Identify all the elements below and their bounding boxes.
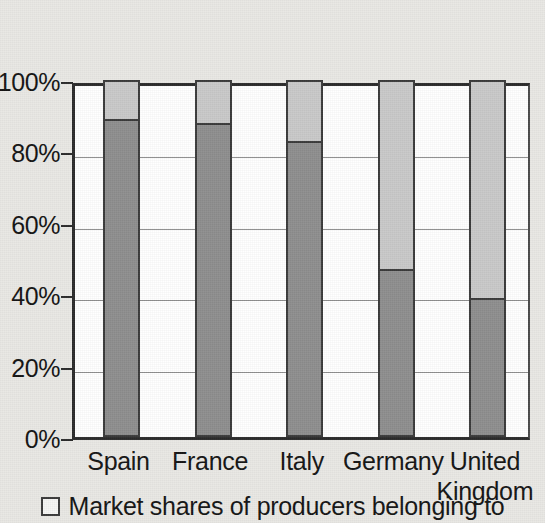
x-axis-category-label-line: United <box>405 446 545 476</box>
bar-segment-lower <box>378 269 415 437</box>
bar-segment-upper <box>469 80 506 298</box>
legend-item-label: Market shares of producers belonging to <box>69 492 505 520</box>
stacked-column-chart: 100%80%60%40%20%0% SpainFranceItalyGerma… <box>0 0 545 523</box>
y-axis-tick-label: 80% <box>0 141 60 166</box>
stacked-bar <box>195 80 232 437</box>
bar-segment-upper <box>286 80 323 141</box>
bar-segment-lower <box>103 119 140 437</box>
legend-swatch-icon <box>41 497 60 516</box>
bar-segment-upper <box>195 80 232 123</box>
y-axis-tick-label: 100% <box>0 70 60 95</box>
bar-segment-lower <box>469 298 506 437</box>
plot-area <box>72 83 530 440</box>
chart-legend: Market shares of producers belonging to <box>0 492 545 520</box>
stacked-bar <box>378 80 415 437</box>
y-axis-tick-label: 40% <box>0 284 60 309</box>
stacked-bar <box>469 80 506 437</box>
y-axis-tick-label: 60% <box>0 213 60 238</box>
bar-segment-lower <box>195 123 232 437</box>
stacked-bar <box>286 80 323 437</box>
bar-segment-upper <box>378 80 415 269</box>
stacked-bar <box>103 80 140 437</box>
y-axis-tick-label: 20% <box>0 356 60 381</box>
bar-segment-lower <box>286 141 323 437</box>
bar-segment-upper <box>103 80 140 119</box>
